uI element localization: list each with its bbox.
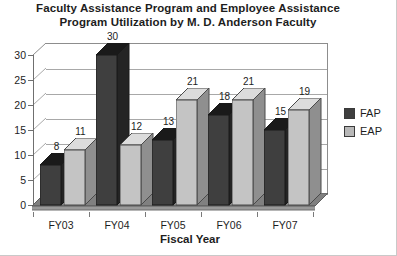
bar-front-face: [264, 130, 285, 205]
bar-value-eap-fy04: 12: [120, 121, 154, 132]
legend-item-eap[interactable]: EAP: [344, 123, 382, 139]
legend-label-eap: EAP: [360, 125, 382, 137]
x-tick-mark-2: [145, 212, 146, 217]
bar-front-face: [288, 110, 309, 205]
x-tick-label-fy06: FY06: [202, 219, 256, 231]
bar-front-face: [40, 165, 61, 205]
bars-layer: 8113012132118211519: [0, 0, 397, 256]
bar-front-face: [64, 150, 85, 205]
legend-swatch-fap: [344, 108, 355, 119]
legend-swatch-eap: [344, 126, 355, 137]
bar-eap-fy07[interactable]: [288, 98, 323, 207]
x-tick-label-fy03: FY03: [34, 219, 88, 231]
bar-eap-fy06[interactable]: [232, 88, 267, 207]
bar-value-eap-fy06: 21: [232, 76, 266, 87]
bar-value-eap-fy07: 19: [288, 86, 322, 97]
x-tick-label-fy04: FY04: [90, 219, 144, 231]
x-tick-label-fy07: FY07: [258, 219, 312, 231]
bar-side-face: [309, 98, 321, 205]
legend-label-fap: FAP: [360, 107, 381, 119]
x-tick-mark-1: [89, 212, 90, 217]
x-tick-mark-4: [257, 212, 258, 217]
bar-front-face: [232, 100, 253, 205]
x-tick-label-fy05: FY05: [146, 219, 200, 231]
bar-front-face: [176, 100, 197, 205]
x-tick-mark-0: [33, 212, 34, 217]
bar-front-face: [152, 140, 173, 205]
bar-value-eap-fy05: 21: [176, 76, 210, 87]
bar-front-face: [120, 145, 141, 205]
x-axis-title: Fiscal Year: [60, 233, 320, 245]
bar-front-face: [208, 115, 229, 205]
bar-eap-fy03[interactable]: [64, 138, 99, 207]
x-tick-mark-3: [201, 212, 202, 217]
legend-item-fap[interactable]: FAP: [344, 105, 382, 121]
bar-front-face: [96, 55, 117, 205]
chart-container: Faculty Assistance Program and Employee …: [0, 0, 397, 256]
bar-eap-fy04[interactable]: [120, 133, 155, 207]
bar-eap-fy05[interactable]: [176, 88, 211, 207]
chart-legend: FAP EAP: [344, 105, 382, 141]
bar-value-fap-fy04: 30: [96, 31, 130, 42]
x-tick-mark-5: [313, 212, 314, 217]
bar-value-eap-fy03: 11: [64, 126, 98, 137]
